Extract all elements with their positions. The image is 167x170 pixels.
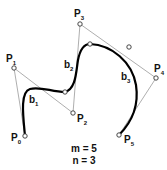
- knot-point-1: [63, 90, 67, 94]
- caption-m: m = 5: [71, 143, 97, 154]
- label-p2: P2: [77, 113, 88, 126]
- label-b2: b2: [64, 59, 74, 72]
- label-p3: P3: [74, 8, 85, 21]
- control-point-p2: [71, 111, 75, 115]
- knot-point-2: [88, 42, 92, 46]
- spline-segment-b3: [90, 44, 137, 135]
- label-p5: P5: [124, 134, 135, 147]
- label-b1: b1: [29, 94, 39, 107]
- label-p0: P0: [11, 132, 22, 145]
- label-p1: P1: [6, 53, 17, 66]
- knot-point-3: [127, 45, 131, 49]
- control-point-p1: [12, 66, 16, 70]
- control-point-labels: P0P1P2P3P4P5: [6, 8, 165, 147]
- caption-n: n = 3: [72, 155, 96, 166]
- label-b3: b3: [121, 71, 131, 84]
- control-point-p5: [117, 133, 121, 137]
- control-point-p0: [23, 134, 27, 138]
- segment-labels: b1b2b3: [29, 59, 131, 107]
- label-p4: P4: [154, 63, 165, 76]
- control-point-p3: [78, 22, 82, 26]
- bezier-spline-diagram: P0P1P2P3P4P5 b1b2b3 m = 5 n = 3: [0, 0, 167, 170]
- control-point-p4: [154, 76, 158, 80]
